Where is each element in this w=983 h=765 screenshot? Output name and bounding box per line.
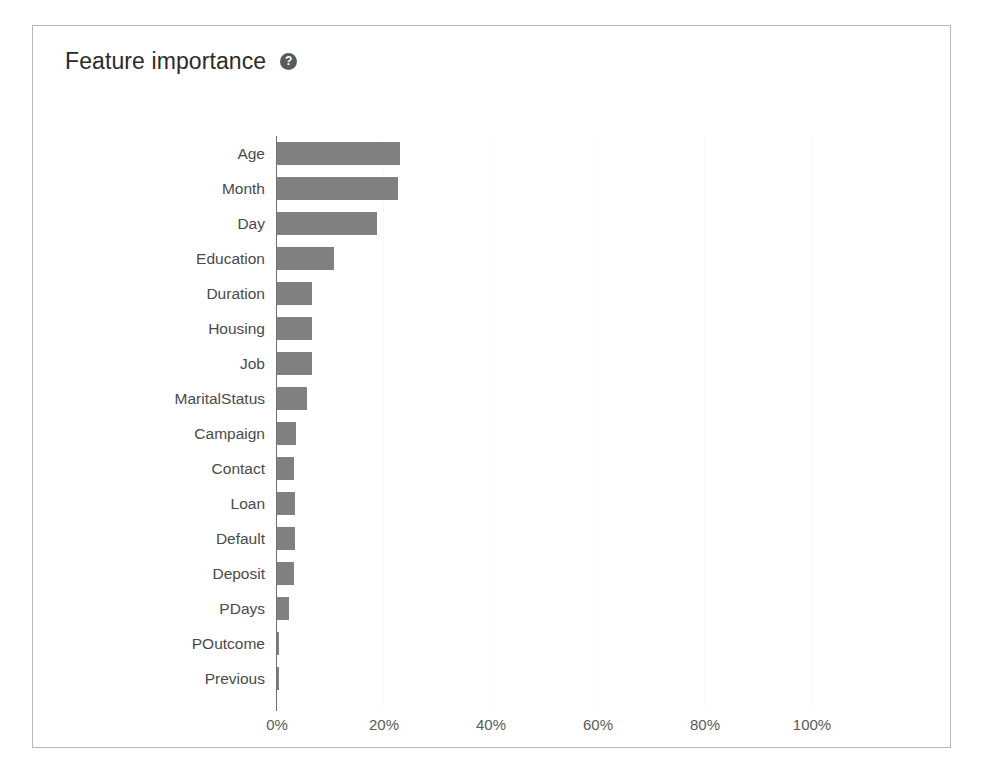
- bar-label-poutcome: POutcome: [192, 626, 265, 661]
- chart-row: Day: [33, 206, 952, 241]
- bar-label-loan: Loan: [231, 486, 265, 521]
- bar-contact[interactable]: [277, 457, 294, 480]
- bar-label-pdays: PDays: [219, 591, 265, 626]
- bar-pdays[interactable]: [277, 597, 289, 620]
- chart-row: Previous: [33, 661, 952, 696]
- x-tick-80: 80%: [690, 716, 720, 733]
- bar-label-campaign: Campaign: [194, 416, 265, 451]
- chart-row: Age: [33, 136, 952, 171]
- chart-row: Campaign: [33, 416, 952, 451]
- bar-label-maritalstatus: MaritalStatus: [175, 381, 265, 416]
- bar-age[interactable]: [277, 142, 400, 165]
- bar-default[interactable]: [277, 527, 295, 550]
- bar-education[interactable]: [277, 247, 334, 270]
- bar-label-month: Month: [222, 171, 265, 206]
- bar-label-day: Day: [237, 206, 265, 241]
- feature-importance-chart: AgeMonthDayEducationDurationHousingJobMa…: [33, 26, 952, 749]
- bar-poutcome[interactable]: [277, 632, 279, 655]
- chart-row: Deposit: [33, 556, 952, 591]
- chart-row: Loan: [33, 486, 952, 521]
- bar-campaign[interactable]: [277, 422, 296, 445]
- x-axis-tick-labels: 0%20%40%60%80%100%: [33, 716, 952, 740]
- chart-row: Education: [33, 241, 952, 276]
- chart-row: PDays: [33, 591, 952, 626]
- bar-housing[interactable]: [277, 317, 312, 340]
- chart-row: Month: [33, 171, 952, 206]
- bar-day[interactable]: [277, 212, 377, 235]
- bar-label-duration: Duration: [206, 276, 265, 311]
- chart-row: MaritalStatus: [33, 381, 952, 416]
- x-tick-20: 20%: [369, 716, 399, 733]
- bar-label-education: Education: [196, 241, 265, 276]
- chart-row: Housing: [33, 311, 952, 346]
- chart-row: Job: [33, 346, 952, 381]
- bar-duration[interactable]: [277, 282, 312, 305]
- chart-row: Duration: [33, 276, 952, 311]
- chart-bars-group: AgeMonthDayEducationDurationHousingJobMa…: [33, 136, 952, 711]
- bar-label-contact: Contact: [212, 451, 265, 486]
- bar-label-default: Default: [216, 521, 265, 556]
- chart-row: Contact: [33, 451, 952, 486]
- x-tick-0: 0%: [266, 716, 288, 733]
- bar-deposit[interactable]: [277, 562, 294, 585]
- bar-month[interactable]: [277, 177, 398, 200]
- bar-label-previous: Previous: [205, 661, 265, 696]
- x-tick-40: 40%: [476, 716, 506, 733]
- bar-loan[interactable]: [277, 492, 295, 515]
- bar-previous[interactable]: [277, 667, 279, 690]
- page-root: Feature importance ? AgeMonthDayEducatio…: [0, 0, 983, 765]
- chart-row: Default: [33, 521, 952, 556]
- feature-importance-card: Feature importance ? AgeMonthDayEducatio…: [32, 25, 951, 748]
- chart-row: POutcome: [33, 626, 952, 661]
- x-tick-60: 60%: [583, 716, 613, 733]
- bar-label-age: Age: [237, 136, 265, 171]
- bar-maritalstatus[interactable]: [277, 387, 307, 410]
- bar-label-deposit: Deposit: [212, 556, 265, 591]
- x-tick-100: 100%: [793, 716, 831, 733]
- bar-label-job: Job: [240, 346, 265, 381]
- bar-job[interactable]: [277, 352, 312, 375]
- bar-label-housing: Housing: [208, 311, 265, 346]
